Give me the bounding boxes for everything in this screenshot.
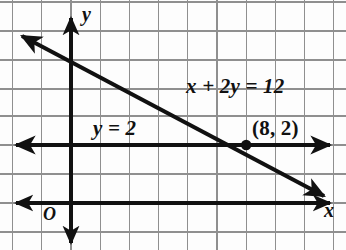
line-equation-label: x + 2y = 12 [186,76,284,97]
intersection-point-label: (8, 2) [252,118,299,139]
horizontal-line-equation-label: y = 2 [93,118,136,139]
coordinate-graph-figure: x + 2y = 12 (8, 2) y = 2 y x O [0,0,346,250]
x-axis-label: x [324,200,334,220]
origin-label: O [43,205,56,223]
intersection-point-marker [241,140,251,150]
y-axis-label: y [82,4,91,24]
